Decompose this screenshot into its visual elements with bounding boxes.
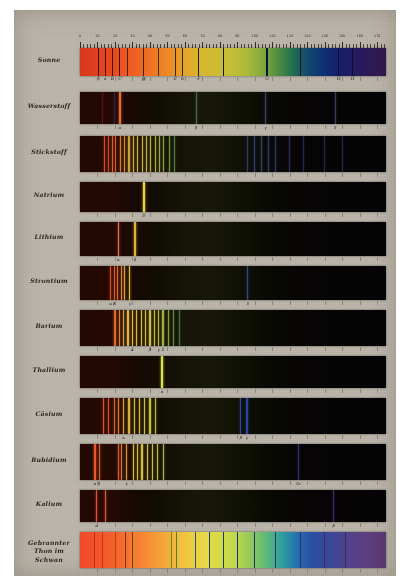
line-identifier: α: [94, 481, 97, 486]
row-tick: [307, 213, 308, 217]
row-tick: [202, 77, 203, 81]
row-tick: [185, 125, 186, 129]
row-tick: [290, 77, 291, 81]
spectral-line: [139, 398, 140, 434]
line-identifier: γ: [125, 481, 127, 486]
line-identifier: α: [109, 301, 112, 306]
row-tick: [272, 347, 273, 351]
spectral-line: [133, 444, 134, 480]
row-tick: [132, 569, 133, 573]
row-tick: [132, 257, 133, 261]
spectral-line: [144, 398, 145, 434]
line-identifier: α: [117, 257, 120, 262]
row-tick: [290, 213, 291, 217]
row-tick: [290, 301, 291, 305]
row-tick: [342, 569, 343, 573]
row-tick: [202, 125, 203, 129]
row-tick: [342, 301, 343, 305]
row-tick: [115, 481, 116, 485]
row-label-rubidium: Rubidium: [20, 456, 78, 464]
spectral-line: [114, 266, 115, 300]
spectral-line: [125, 532, 126, 568]
row-tick-marks: αβγδ: [80, 347, 386, 352]
spectrum-band-rubidium: [80, 444, 386, 480]
row-tick: [132, 213, 133, 217]
row-tick: [272, 173, 273, 177]
row-tick: [185, 347, 186, 351]
row-tick: [290, 125, 291, 129]
row-tick: [150, 481, 151, 485]
spectral-line: [142, 136, 143, 172]
spectral-line: [157, 444, 158, 480]
row-tick: [167, 389, 168, 393]
row-tick: [115, 173, 116, 177]
scale-tick-label: 40: [148, 34, 152, 38]
row-tick: [237, 435, 238, 439]
row-tick: [220, 125, 221, 129]
row-tick: [97, 125, 98, 129]
spectral-lines: [80, 310, 386, 346]
row-tick: [202, 347, 203, 351]
row-tick: [185, 301, 186, 305]
scale-tick-label: 120: [287, 34, 293, 38]
line-identifier: α: [161, 389, 164, 394]
spectral-line: [300, 532, 301, 568]
row-tick: [115, 125, 116, 129]
spectrum-band-thallium: [80, 356, 386, 388]
row-tick: [255, 257, 256, 261]
row-tick: [360, 301, 361, 305]
spectral-lines: [80, 182, 386, 212]
row-tick: [185, 213, 186, 217]
spectral-lines: [80, 356, 386, 388]
spectral-line: [162, 310, 163, 346]
row-label-line: Cäsium: [20, 410, 78, 418]
row-label-line: Strontium: [20, 277, 78, 285]
spectrum-surface: [80, 48, 386, 76]
spectral-line: [105, 48, 106, 76]
spectrum-surface: [80, 136, 386, 172]
spectrum-surface: [80, 532, 386, 568]
row-tick: [377, 301, 378, 305]
spectral-line: [136, 310, 137, 346]
row-tick: [290, 481, 291, 485]
row-tick: [150, 301, 151, 305]
spectral-line: [324, 532, 325, 568]
spectral-line: [94, 444, 95, 480]
spectrum-band-sonne: [80, 48, 386, 76]
line-identifier: α: [131, 347, 134, 352]
row-tick: [167, 523, 168, 527]
row-label-line: Lithium: [20, 233, 78, 241]
row-label-sonne: Sonne: [20, 56, 78, 64]
line-identifier: β: [98, 481, 100, 486]
spectral-line: [124, 266, 125, 300]
spectral-line: [335, 92, 336, 124]
spectral-line: [161, 356, 163, 388]
spectral-line: [114, 310, 115, 346]
row-label-lithium: Lithium: [20, 233, 78, 241]
row-tick: [220, 213, 221, 217]
spectral-line: [105, 490, 106, 522]
spectral-line: [266, 48, 267, 76]
row-tick: [237, 301, 238, 305]
spectral-line: [338, 48, 339, 76]
spectral-line: [143, 48, 144, 76]
row-tick-marks: αβγδ: [80, 125, 386, 130]
line-identifier: β: [195, 125, 197, 130]
row-tick: [307, 173, 308, 177]
row-tick: [132, 481, 133, 485]
row-tick: [150, 213, 151, 217]
spectrum-surface: [80, 490, 386, 522]
spectral-line: [303, 136, 304, 172]
row-tick: [255, 347, 256, 351]
row-tick: [360, 77, 361, 81]
spectral-line: [268, 136, 269, 172]
spectral-line: [149, 310, 150, 346]
row-tick: [185, 389, 186, 393]
row-tick: [237, 213, 238, 217]
row-label-line: Schwan: [20, 556, 78, 564]
row-tick: [307, 77, 308, 81]
spectral-lines: [80, 92, 386, 124]
row-tick: [255, 481, 256, 485]
row-tick: [325, 125, 326, 129]
row-tick: [325, 173, 326, 177]
